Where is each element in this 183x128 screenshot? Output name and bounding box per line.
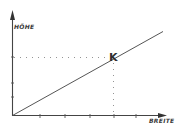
x-axis-label: BREITE <box>149 118 175 124</box>
y-axis-arrow-icon <box>10 10 15 20</box>
diagram-canvas <box>0 0 183 128</box>
y-axis-label: HÖHE <box>14 24 34 30</box>
data-line <box>13 32 164 116</box>
point-k-label: K <box>109 52 118 63</box>
